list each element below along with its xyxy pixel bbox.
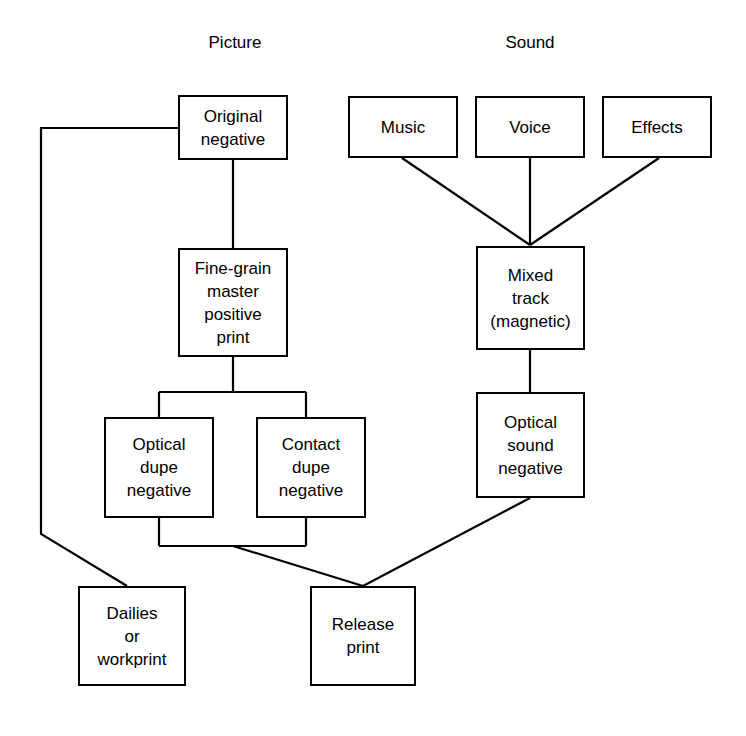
node-fine-grain-master[interactable]: Fine-grain master positive print xyxy=(178,248,288,357)
edge-optical-sound-negative-to-release-print xyxy=(363,498,530,586)
node-effects[interactable]: Effects xyxy=(602,96,712,158)
edge-music-to-mixed-track xyxy=(402,158,530,245)
node-release-print[interactable]: Release print xyxy=(310,586,416,686)
column-heading-sound: Sound xyxy=(475,33,585,53)
node-mixed-track[interactable]: Mixed track (magnetic) xyxy=(476,246,585,350)
node-optical-dupe-negative[interactable]: Optical dupe negative xyxy=(104,417,214,518)
flowchart-canvas: Picture Sound xyxy=(0,0,746,736)
node-original-negative[interactable]: Original negative xyxy=(178,95,288,160)
edge-dupes-to-release-print xyxy=(233,546,363,586)
node-contact-dupe-negative[interactable]: Contact dupe negative xyxy=(256,417,366,518)
node-dailies-or-workprint[interactable]: Dailies or workprint xyxy=(78,586,186,686)
node-voice[interactable]: Voice xyxy=(475,96,585,158)
node-music[interactable]: Music xyxy=(348,96,458,158)
node-optical-sound-negative[interactable]: Optical sound negative xyxy=(476,392,585,498)
edge-effects-to-mixed-track xyxy=(530,158,659,245)
column-heading-picture: Picture xyxy=(180,33,290,53)
